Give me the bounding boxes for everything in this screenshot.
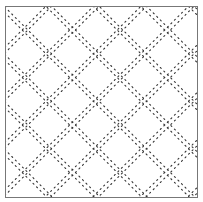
pattern-canvas <box>0 0 203 202</box>
diamond-lattice-pattern <box>0 0 203 202</box>
dotted-diagonal-lines <box>0 0 203 202</box>
